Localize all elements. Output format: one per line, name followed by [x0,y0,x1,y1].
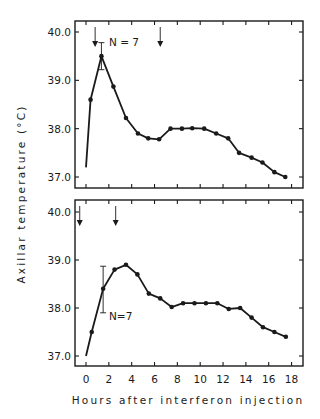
data-point-marker [226,307,231,312]
data-point-marker [168,126,173,131]
data-point-marker [272,330,277,335]
temperature-chart: 37.038.039.040.0N = 7 02468101214161837.… [0,0,320,419]
y-tick-label: 40.0 [48,26,71,38]
y-tick-label: 37.0 [48,171,71,183]
x-tick-label: 2 [105,373,112,385]
x-tick-label: 12 [216,373,229,385]
data-point-marker [214,131,219,136]
data-point-marker [249,155,254,160]
x-tick-label: 14 [239,373,253,385]
data-point-marker [204,301,209,306]
x-axis-title: Hours after interferon injection [72,394,305,406]
sample-size-label: N=7 [109,310,132,322]
arrow-head-icon [77,220,83,226]
data-point-marker [260,160,265,165]
data-point-marker [135,272,140,277]
data-point-marker [181,301,186,306]
x-tick-label: 10 [194,373,207,385]
y-tick-label: 40.0 [48,206,71,218]
y-axis-title: Axillar temperature (°C) [15,104,27,283]
data-point-marker [147,291,152,296]
data-point-marker [146,136,151,141]
y-tick-label: 38.0 [48,302,71,314]
data-point-marker [249,315,254,320]
y-tick-label: 39.0 [48,74,71,86]
data-point-marker [190,126,195,131]
data-point-marker [192,301,197,306]
data-point-marker [180,126,185,131]
y-tick-label: 37.0 [48,350,71,362]
data-point-marker [284,335,289,340]
data-point-marker [261,325,266,330]
data-point-marker [215,301,220,306]
bottom-panel: 02468101214161837.038.039.040.0N=7 [48,200,303,385]
y-tick-label: 39.0 [48,254,71,266]
figure: 37.038.039.040.0N = 7 02468101214161837.… [0,0,320,419]
x-tick-label: 16 [262,373,276,385]
arrow-head-icon [113,220,119,226]
data-point-marker [88,97,93,102]
data-point-marker [157,137,162,142]
data-point-marker [202,126,207,131]
top-panel: 37.038.039.040.0N = 7 [48,21,303,188]
data-line [86,56,285,177]
arrow-head-icon [92,41,98,47]
data-point-marker [226,136,231,141]
data-point-marker [237,151,242,156]
data-point-marker [89,330,94,335]
x-tick-label: 18 [285,373,298,385]
y-tick-label: 38.0 [48,123,71,135]
x-tick-label: 0 [83,373,90,385]
data-point-marker [136,131,141,136]
x-tick-label: 4 [128,373,135,385]
x-tick-label: 6 [151,373,158,385]
plot-frame [75,200,303,366]
data-point-marker [112,267,117,272]
data-point-marker [111,84,116,89]
x-tick-label: 8 [174,373,181,385]
data-point-marker [124,116,129,121]
data-point-marker [283,175,288,180]
data-point-marker [238,306,243,311]
sample-size-label: N = 7 [109,36,139,48]
data-point-marker [169,305,174,310]
data-point-marker [272,170,277,175]
data-point-marker [124,263,129,268]
arrow-head-icon [157,41,163,47]
data-point-marker [158,296,163,301]
